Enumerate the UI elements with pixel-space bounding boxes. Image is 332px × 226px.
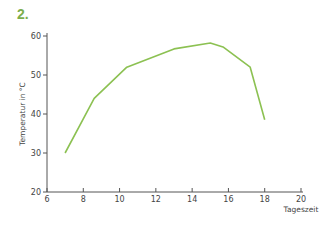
x-axis-title: Tageszeit bbox=[283, 205, 319, 214]
x-tick-label: 10 bbox=[114, 195, 124, 204]
x-tick-label: 6 bbox=[44, 195, 49, 204]
y-tick-label: 30 bbox=[31, 149, 41, 158]
x-tick-label: 12 bbox=[151, 195, 161, 204]
y-axis-title: Temperatur in °C bbox=[18, 82, 27, 147]
line-chart: 203040506068101214161820 Temperatur in °… bbox=[0, 0, 332, 226]
x-tick-label: 18 bbox=[260, 195, 270, 204]
x-tick-label: 8 bbox=[81, 195, 86, 204]
x-tick-label: 14 bbox=[187, 195, 197, 204]
y-tick-label: 20 bbox=[31, 188, 41, 197]
x-tick-label: 16 bbox=[223, 195, 233, 204]
y-tick-label: 50 bbox=[31, 71, 41, 80]
temperature-series-line bbox=[65, 43, 265, 153]
y-tick-label: 60 bbox=[31, 32, 41, 41]
y-tick-label: 40 bbox=[31, 110, 41, 119]
x-tick-label: 20 bbox=[296, 195, 306, 204]
